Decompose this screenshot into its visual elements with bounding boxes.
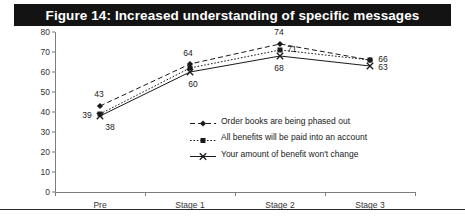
data-point-value-label: 64: [183, 48, 192, 58]
figure-title: Figure 14: Increased understanding of sp…: [46, 8, 420, 23]
legend-item[interactable]: Order books are being phased out: [190, 114, 367, 127]
y-axis-tick-label: 0: [45, 187, 50, 197]
data-point-value-label: 60: [188, 79, 197, 89]
legend-label: All benefits will be paid into an accoun…: [221, 132, 367, 142]
data-point-marker-filled-square: [278, 48, 283, 53]
legend-item[interactable]: All benefits will be paid into an accoun…: [190, 131, 367, 144]
data-point-value-label: 43: [94, 89, 103, 99]
x-axis-tick-mark: [145, 192, 146, 196]
y-axis-tick-label: 50: [41, 87, 50, 97]
chart-plot-area: 01020304050607080 PreStage 1Stage 2Stage…: [55, 32, 415, 192]
data-point-value-label: 74: [274, 27, 283, 37]
data-point-marker-filled-square: [201, 138, 206, 143]
x-axis-tick-mark: [325, 192, 326, 196]
chart-legend: Order books are being phased outAll bene…: [190, 114, 367, 160]
data-point-marker-filled-diamond: [97, 103, 103, 109]
figure-container: Figure 14: Increased understanding of sp…: [0, 0, 465, 218]
y-axis-tick-label: 10: [41, 167, 50, 177]
data-point-marker-filled-diamond: [277, 41, 283, 47]
legend-item[interactable]: Your amount of benefit won't change: [190, 147, 367, 160]
bottom-divider: [0, 209, 465, 210]
x-axis-tick-mark: [55, 192, 56, 196]
chart-series-layer: [55, 32, 415, 192]
series-line: [100, 50, 370, 114]
y-axis-tick-label: 70: [41, 47, 50, 57]
chart-axes: 01020304050607080 PreStage 1Stage 2Stage…: [55, 32, 415, 192]
legend-marker-filled-square-icon: [190, 132, 216, 143]
y-axis-tick-label: 20: [41, 147, 50, 157]
data-point-marker-filled-diamond: [200, 120, 206, 126]
legend-label: Your amount of benefit won't change: [221, 149, 358, 159]
series-line: [100, 56, 370, 116]
data-point-marker-filled-square: [368, 58, 373, 63]
y-axis-tick-label: 60: [41, 67, 50, 77]
data-point-value-label: 38: [105, 122, 114, 132]
y-axis-tick-label: 40: [41, 107, 50, 117]
legend-marker-filled-diamond-icon: [190, 115, 216, 126]
legend-marker-cross-x-icon: [190, 148, 216, 159]
data-point-value-label: 63: [378, 62, 387, 72]
data-point-value-label: 39: [82, 110, 91, 120]
y-axis-tick-label: 80: [41, 27, 50, 37]
x-axis-tick-mark: [235, 192, 236, 196]
legend-label: Order books are being phased out: [221, 116, 350, 126]
figure-title-bar: Figure 14: Increased understanding of sp…: [14, 4, 451, 26]
data-point-value-label: 68: [274, 63, 283, 73]
x-axis-tick-mark: [415, 192, 416, 196]
y-axis-tick-label: 30: [41, 127, 50, 137]
data-point-value-label: 71: [287, 44, 296, 54]
